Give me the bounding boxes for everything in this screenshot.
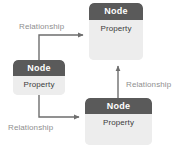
node-header-label: Node	[85, 98, 152, 114]
node-property-label: Property	[89, 20, 143, 60]
edge-left-to-bottom-arrow	[39, 95, 79, 117]
node-property-label: Property	[85, 114, 152, 145]
node-card-bottom[interactable]: Node Property	[85, 98, 152, 145]
node-header-label: Node	[89, 3, 143, 20]
edge-label-bottom-to-top: Relationship	[126, 80, 171, 89]
node-card-left[interactable]: Node Property	[13, 60, 65, 95]
graph-data-model-diagram: Node Property Node Property Node Propert…	[0, 0, 184, 148]
edge-label-left-to-bottom: Relationship	[8, 123, 53, 132]
node-card-top[interactable]: Node Property	[89, 3, 143, 60]
node-property-label: Property	[13, 76, 65, 95]
edge-left-to-top-arrow	[39, 35, 83, 60]
node-header-label: Node	[13, 60, 65, 76]
edge-label-left-to-top: Relationship	[19, 22, 64, 31]
